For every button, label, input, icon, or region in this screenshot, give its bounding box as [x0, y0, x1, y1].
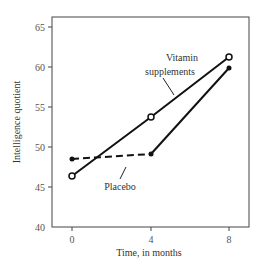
line-chart: 65 60 55 50 45 40 Intelligence quotient …	[0, 0, 262, 267]
y-tick-label: 55	[35, 102, 45, 113]
x-tick-label: 0	[70, 234, 75, 245]
y-tick-label: 60	[35, 62, 45, 73]
vitamin-marker	[226, 54, 232, 60]
plot-frame	[52, 17, 249, 227]
placebo-label: Placebo	[104, 181, 136, 192]
y-tick-label: 50	[35, 142, 45, 153]
y-tick-label: 40	[35, 222, 45, 233]
x-tick-label: 4	[149, 234, 154, 245]
y-tick-label: 65	[35, 22, 45, 33]
placebo-solid-segment	[151, 68, 229, 154]
x-tick-label: 8	[227, 234, 232, 245]
vitamin-label-line1: Vitamin	[166, 52, 198, 63]
placebo-marker	[149, 152, 154, 157]
y-tick-label: 45	[35, 182, 45, 193]
y-axis-label: Intelligence quotient	[11, 81, 22, 164]
placebo-pointer	[120, 167, 126, 179]
placebo-marker	[227, 66, 232, 71]
vitamin-marker	[148, 114, 154, 120]
x-axis: 0 4 8 Time, in months	[70, 227, 232, 258]
y-axis: 65 60 55 50 45 40 Intelligence quotient	[11, 22, 52, 233]
vitamin-marker	[69, 173, 75, 179]
placebo-dashed-segment	[72, 154, 151, 159]
series-placebo: Placebo	[70, 66, 232, 193]
vitamin-pointer	[163, 78, 174, 95]
series-vitamin-supplements: Vitamin supplements	[69, 52, 232, 179]
x-axis-label: Time, in months	[116, 247, 182, 258]
placebo-marker	[70, 157, 75, 162]
vitamin-label-line2: supplements	[145, 66, 195, 77]
